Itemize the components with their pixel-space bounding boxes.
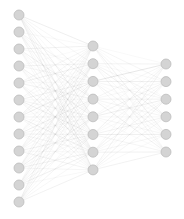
edge bbox=[19, 152, 93, 185]
edge bbox=[19, 32, 93, 46]
input-layer-node-11 bbox=[14, 197, 24, 207]
input-layer-node-7 bbox=[14, 129, 24, 139]
hidden-layer-node-5 bbox=[88, 130, 98, 140]
edge bbox=[19, 15, 93, 99]
hidden-layer-node-0 bbox=[88, 41, 98, 51]
input-layer-node-1 bbox=[14, 27, 24, 37]
hidden-layer-node-2 bbox=[88, 76, 98, 86]
network-canvas bbox=[0, 0, 184, 219]
hidden-layer-node-1 bbox=[88, 59, 98, 69]
output-layer-node-5 bbox=[161, 147, 171, 157]
hidden-layer-node-7 bbox=[88, 165, 98, 175]
input-layer-node-6 bbox=[14, 112, 24, 122]
output-layer-node-0 bbox=[161, 59, 171, 69]
output-layer-node-1 bbox=[161, 77, 171, 87]
edge bbox=[19, 64, 93, 202]
input-layer-node-0 bbox=[14, 10, 24, 20]
edge bbox=[19, 135, 93, 152]
edge bbox=[19, 117, 93, 135]
output-layer-node-3 bbox=[161, 112, 171, 122]
edge bbox=[93, 82, 166, 170]
input-layer-node-3 bbox=[14, 61, 24, 71]
hidden-layer-node-4 bbox=[88, 112, 98, 122]
output-layer-node-4 bbox=[161, 129, 171, 139]
input-layer-node-4 bbox=[14, 78, 24, 88]
edge bbox=[93, 117, 166, 170]
input-layer-node-10 bbox=[14, 180, 24, 190]
output-layer-node-2 bbox=[161, 94, 171, 104]
hidden-layer-node-3 bbox=[88, 94, 98, 104]
input-layer-node-5 bbox=[14, 95, 24, 105]
input-layer-node-9 bbox=[14, 163, 24, 173]
edge bbox=[93, 46, 166, 64]
neural-network-figure bbox=[0, 0, 184, 219]
edge bbox=[19, 83, 93, 170]
edge bbox=[93, 152, 166, 170]
input-layer-node-2 bbox=[14, 44, 24, 54]
hidden-layer-node-6 bbox=[88, 147, 98, 157]
input-layer-node-8 bbox=[14, 146, 24, 156]
edge bbox=[19, 46, 93, 66]
